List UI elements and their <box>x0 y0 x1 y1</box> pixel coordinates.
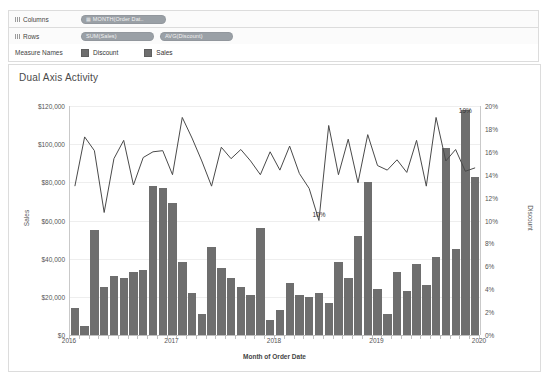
y-axis-right-tick-label: 16% <box>485 148 498 155</box>
y-axis-right-tick-label: 18% <box>485 125 498 132</box>
pill-month-order-date[interactable]: ▦ MONTH(Order Dat.. <box>81 15 166 24</box>
pill-month-order-date-label: MONTH(Order Dat.. <box>93 16 144 22</box>
columns-shelf-label: Columns <box>9 16 77 23</box>
pill-sum-sales-label: SUM(Sales) <box>86 33 117 39</box>
columns-shelf-field[interactable]: ▦ MONTH(Order Dat.. <box>77 15 538 24</box>
columns-label-text: Columns <box>23 16 49 23</box>
grip-icon <box>15 17 20 22</box>
measure-names-legend-title: Measure Names <box>9 49 77 56</box>
legend-item-discount[interactable]: Discount <box>81 49 118 57</box>
y-axis-left-tick-label: $80,000 <box>42 179 66 186</box>
y-axis-right-tick-label: 14% <box>485 171 498 178</box>
tableau-viz-window: Columns ▦ MONTH(Order Dat.. Rows SUM(Sal… <box>0 0 547 380</box>
measure-names-legend[interactable]: Measure Names Discount Sales <box>8 44 539 62</box>
discount-line-path <box>75 117 475 220</box>
y-axis-right-tick-label: 12% <box>485 194 498 201</box>
y-axis-right-title: Discount <box>527 205 534 230</box>
page-title: Dual Axis Activity <box>19 72 98 83</box>
pill-avg-discount[interactable]: AVG(Discount) <box>160 32 233 41</box>
y-axis-left-tick-label: $60,000 <box>42 217 66 224</box>
y-axis-left-title: Sales <box>23 210 30 226</box>
y-axis-left-tick-label: $40,000 <box>42 255 66 262</box>
y-axis-right-tick-label: 6% <box>485 263 494 270</box>
chart-annotation: 19% <box>459 107 472 114</box>
x-axis-tick-label: 2019 <box>369 337 383 344</box>
y-axis-right-tick-label: 2% <box>485 309 494 316</box>
y-axis-right-tick-label: 20% <box>485 103 498 110</box>
legend-label-sales: Sales <box>156 49 172 56</box>
x-axis-title: Month of Order Date <box>9 353 540 360</box>
columns-shelf[interactable]: Columns ▦ MONTH(Order Dat.. <box>8 10 539 27</box>
x-axis-tick-label: 2018 <box>267 337 281 344</box>
rows-label-text: Rows <box>23 33 39 40</box>
y-axis-left-tick-label: $20,000 <box>42 293 66 300</box>
x-axis-tick-label: 2020 <box>472 337 486 344</box>
legend-swatch-sales <box>144 49 152 57</box>
pill-avg-discount-label: AVG(Discount) <box>165 33 203 39</box>
y-axis-right-tick-label: 0% <box>485 332 494 339</box>
rows-shelf[interactable]: Rows SUM(Sales) AVG(Discount) <box>8 27 539 44</box>
line-series-discount <box>70 106 480 335</box>
legend-item-sales[interactable]: Sales <box>144 49 172 57</box>
shelf-panel: Columns ▦ MONTH(Order Dat.. Rows SUM(Sal… <box>8 10 539 62</box>
legend-swatch-discount <box>81 49 89 57</box>
chart-annotation: 10% <box>312 211 325 218</box>
calendar-icon: ▦ <box>86 16 91 22</box>
viz-card: Dual Axis Activity Sales Discount $0$20,… <box>8 64 541 372</box>
y-axis-left-tick-label: $100,000 <box>38 141 65 148</box>
legend-items: Discount Sales <box>77 49 173 57</box>
y-axis-right-tick-label: 10% <box>485 217 498 224</box>
x-axis-tick-label: 2017 <box>164 337 178 344</box>
x-axis-tick-label: 2016 <box>62 337 76 344</box>
legend-label-discount: Discount <box>93 49 118 56</box>
y-axis-left-tick-label: $120,000 <box>38 103 65 110</box>
rows-shelf-field[interactable]: SUM(Sales) AVG(Discount) <box>77 32 538 41</box>
plot-area: $0$20,000$40,000$60,000$80,000$100,000$1… <box>69 106 481 335</box>
grip-icon <box>15 34 20 39</box>
y-axis-right-tick-label: 8% <box>485 240 494 247</box>
y-axis-right-tick-label: 4% <box>485 286 494 293</box>
rows-shelf-label: Rows <box>9 33 77 40</box>
x-axis-tick-labels: 20162017201820192020 <box>69 337 479 349</box>
pill-sum-sales[interactable]: SUM(Sales) <box>81 32 154 41</box>
